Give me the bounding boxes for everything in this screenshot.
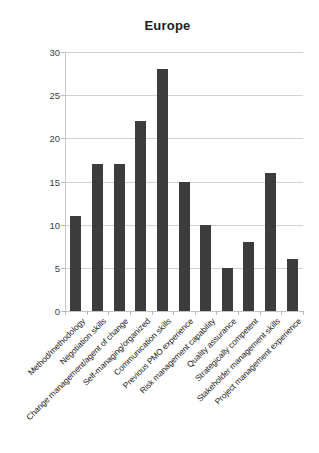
bar: [70, 216, 81, 311]
plot-area: [65, 52, 303, 311]
bar: [179, 182, 190, 312]
y-tick-label: 20: [20, 133, 60, 144]
y-tick-label: 15: [20, 176, 60, 187]
y-tick-mark: [61, 225, 65, 226]
x-tick-mark: [303, 311, 304, 315]
chart-title-text: Europe: [145, 18, 191, 33]
x-tick-mark: [216, 311, 217, 315]
bar: [287, 259, 298, 311]
x-tick-mark: [87, 311, 88, 315]
bar: [135, 121, 146, 311]
x-tick-mark: [238, 311, 239, 315]
bar: [243, 242, 254, 311]
y-axis-tick-labels: 051015202530: [16, 52, 60, 311]
y-tick-mark: [61, 52, 65, 53]
x-tick-mark: [65, 311, 66, 315]
y-tick-mark: [61, 182, 65, 183]
y-tick-label: 25: [20, 90, 60, 101]
chart-title: Europe: [0, 18, 319, 33]
gridline: [65, 311, 303, 312]
bar: [265, 173, 276, 311]
y-tick-mark: [61, 311, 65, 312]
x-tick-mark: [281, 311, 282, 315]
y-tick-label: 10: [20, 219, 60, 230]
y-tick-label: 5: [20, 262, 60, 273]
x-tick-mark: [130, 311, 131, 315]
y-tick-mark: [61, 95, 65, 96]
y-tick-mark: [61, 138, 65, 139]
bar: [114, 164, 125, 311]
x-tick-mark: [152, 311, 153, 315]
x-tick-mark: [260, 311, 261, 315]
bar: [92, 164, 103, 311]
x-tick-mark: [195, 311, 196, 315]
bar: [200, 225, 211, 311]
bar-chart: Europe 051015202530 Method/methodologyNe…: [0, 0, 319, 453]
bar: [157, 69, 168, 311]
x-tick-mark: [173, 311, 174, 315]
y-tick-label: 30: [20, 47, 60, 58]
x-tick-mark: [108, 311, 109, 315]
bars-layer: [65, 52, 303, 311]
bar: [222, 268, 233, 311]
y-tick-label: 0: [20, 306, 60, 317]
y-tick-mark: [61, 268, 65, 269]
